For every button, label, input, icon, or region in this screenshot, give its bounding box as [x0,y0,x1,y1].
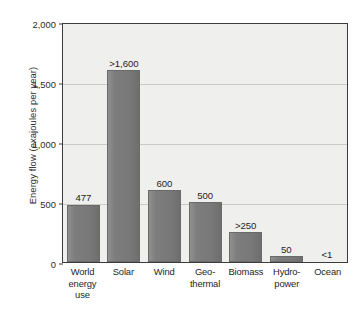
bar-value-label: 50 [281,244,291,255]
bar-value-label: >1,600 [109,58,138,69]
x-axis-category-label: Geo-thermal [185,266,226,301]
x-axis-category-label: Biomass [225,266,266,301]
bar-group[interactable]: >250 [225,24,266,262]
x-label-line: Wind [144,266,185,278]
bar[interactable] [229,232,262,262]
bar-group[interactable]: 600 [144,24,185,262]
bar-group[interactable]: <1 [306,24,347,262]
x-label-line: power [266,278,307,290]
y-axis-title: Energy flow (exajoules per year) [27,16,38,256]
bar[interactable] [107,70,140,262]
bar-value-label: 477 [75,192,91,203]
y-tick-label: 1,500 [17,79,63,90]
x-axis-category-label: Worldenergy use [62,266,103,301]
bar-value-label: 600 [157,178,173,189]
x-label-line: Geo- [185,266,226,278]
y-tick-label: 1,000 [17,139,63,150]
y-tick-label: 2,000 [17,19,63,30]
x-label-line: Ocean [307,266,348,278]
bar[interactable] [148,190,181,262]
plot-area: 05001,0001,5002,000 477>1,600600500>2505… [62,23,348,263]
bar-series: 477>1,600600500>25050<1 [63,24,347,262]
energy-flow-bar-chart: Energy flow (exajoules per year) 05001,0… [0,0,360,319]
x-label-line: Hydro- [266,266,307,278]
x-axis-category-label: Wind [144,266,185,301]
bar-group[interactable]: 500 [185,24,226,262]
x-axis-category-label: Ocean [307,266,348,301]
bar-value-label: <1 [321,249,332,260]
y-tick-label: 0 [17,259,63,270]
x-axis-category-label: Solar [103,266,144,301]
x-label-line: Solar [103,266,144,278]
bar-group[interactable]: 477 [63,24,104,262]
bar-value-label: 500 [197,190,213,201]
bar[interactable] [189,202,222,262]
bar-value-label: >250 [235,220,256,231]
x-axis-category-label: Hydro-power [266,266,307,301]
x-label-line: thermal [185,278,226,290]
y-tick-label: 500 [17,199,63,210]
x-label-line: energy use [62,278,103,301]
bar[interactable] [67,205,100,262]
x-label-line: Biomass [225,266,266,278]
x-axis-labels: Worldenergy useSolarWindGeo-thermalBioma… [62,266,348,301]
bar-group[interactable]: 50 [266,24,307,262]
x-label-line: World [62,266,103,278]
bar-group[interactable]: >1,600 [104,24,145,262]
bar[interactable] [270,256,303,262]
